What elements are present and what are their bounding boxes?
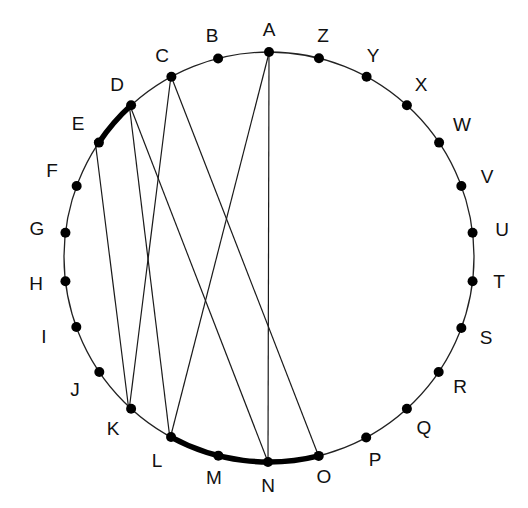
chord-c-k [129, 76, 171, 411]
node-label-o: O [317, 466, 332, 487]
node-label-b: B [206, 25, 219, 46]
node-dot-a [264, 47, 274, 57]
node-label-c: C [155, 45, 169, 66]
node-label-g: G [30, 218, 45, 239]
node-label-s: S [480, 327, 493, 348]
node-dot-c [166, 72, 176, 82]
highlighted-arc-d-e [99, 105, 131, 142]
node-label-r: R [453, 376, 467, 397]
node-dot-x [402, 100, 412, 110]
node-dot-u [468, 228, 478, 238]
node-label-x: X [415, 74, 428, 95]
node-label-i: I [41, 326, 46, 347]
node-dot-m [213, 451, 223, 461]
node-dot-b [213, 53, 223, 63]
node-dot-l [166, 432, 176, 442]
highlighted-arc-l-o [171, 437, 319, 462]
node-dot-n [263, 457, 273, 467]
node-dot-j [94, 367, 104, 377]
node-label-d: D [110, 74, 124, 95]
chord-d-n [129, 103, 268, 462]
node-dot-h [60, 276, 70, 286]
node-label-u: U [495, 219, 509, 240]
node-label-q: Q [417, 417, 432, 438]
node-dot-v [456, 181, 466, 191]
node-dot-z [314, 53, 324, 63]
node-dot-f [72, 181, 82, 191]
node-label-a: A [263, 19, 276, 40]
node-dot-s [456, 323, 466, 333]
node-label-v: V [481, 166, 494, 187]
node-dot-y [362, 72, 372, 82]
node-label-p: P [369, 449, 382, 470]
node-label-z: Z [317, 25, 329, 46]
node-label-k: K [107, 418, 120, 439]
node-label-l: L [152, 450, 163, 471]
node-dot-k [126, 404, 136, 414]
node-label-t: T [493, 271, 505, 292]
chord-a-n [268, 53, 269, 462]
node-label-n: N [261, 475, 275, 496]
node-dot-w [434, 138, 444, 148]
node-dot-o [314, 451, 324, 461]
chord-diagram: ABCDEFGHIJKLMNOPQRSTUVWXYZ [0, 0, 528, 508]
chord-d-l [129, 103, 170, 439]
node-label-j: J [70, 379, 80, 400]
node-label-h: H [29, 273, 43, 294]
node-dot-t [468, 276, 478, 286]
node-label-f: F [46, 160, 58, 181]
node-label-m: M [206, 467, 222, 488]
node-dot-g [60, 228, 70, 238]
chord-c-o [171, 76, 319, 457]
node-dot-d [126, 100, 136, 110]
node-label-e: E [72, 113, 85, 134]
node-label-y: Y [367, 45, 380, 66]
node-dot-r [434, 367, 444, 377]
node-label-w: W [453, 114, 471, 135]
node-dot-e [94, 138, 104, 148]
node-dot-p [361, 432, 371, 442]
node-dot-i [71, 322, 81, 332]
chords-layer [95, 53, 319, 462]
node-dot-q [402, 404, 412, 414]
